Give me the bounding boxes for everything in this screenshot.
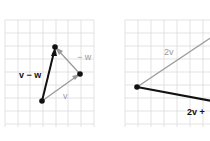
vector-2v: [137, 37, 210, 87]
label-2v: 2v: [164, 47, 174, 57]
v-minus-w-tip-dot: [52, 44, 58, 50]
vector-2v-plus: [137, 87, 210, 101]
v-tip-dot: [77, 71, 83, 77]
label-v-minus-w: v − w: [19, 70, 42, 80]
label-neg-w: − w: [77, 52, 92, 62]
origin-dot: [39, 98, 45, 104]
vector-v-minus-w: [42, 47, 57, 101]
label-v: v: [63, 91, 68, 101]
right-origin-dot: [134, 84, 140, 90]
label-2v-plus: 2v +: [187, 107, 205, 117]
vector-diagram: v − w − w v 2v 2v +: [0, 0, 210, 141]
